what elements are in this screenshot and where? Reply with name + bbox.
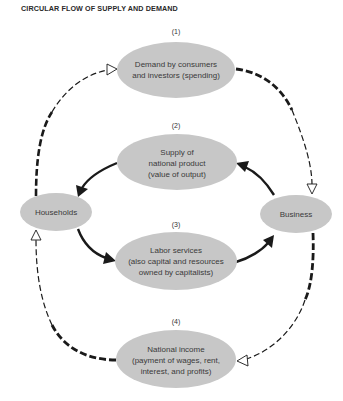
hollow-arrowhead-icon — [237, 355, 248, 366]
edge-business-to-supply — [245, 167, 274, 195]
node-number: (2) — [172, 122, 181, 130]
node-label-line: (value of output) — [148, 170, 206, 179]
hollow-arrowhead-icon — [31, 230, 41, 240]
edge-households-to-labor — [78, 229, 106, 258]
node-label-line: (payment of wages, rent, — [132, 356, 220, 365]
edge-households-to-demand — [36, 70, 108, 196]
node-label-line: owned by capitalists) — [139, 268, 214, 277]
circular-flow-diagram: (1) Demand by consumers and investors (s… — [0, 0, 343, 401]
edge-supply-to-households — [82, 163, 117, 188]
node-label-line: (also capital and resources — [128, 257, 224, 266]
node-households: Households — [20, 193, 92, 231]
node-label-line: and investors (spending) — [132, 71, 220, 80]
node-label-line: Labor services — [150, 246, 202, 255]
node-number: (1) — [172, 28, 181, 36]
filled-arrowhead-icon — [103, 252, 116, 264]
node-supply: (2) Supply of national product (value of… — [117, 122, 237, 190]
hollow-arrowhead-icon — [307, 184, 317, 194]
node-number: (3) — [172, 221, 181, 229]
node-label-line: interest, and profits) — [141, 367, 212, 376]
hollow-arrowhead-icon — [107, 64, 117, 75]
node-demand: (1) Demand by consumers and investors (s… — [117, 28, 235, 98]
node-label-line: Households — [35, 208, 77, 217]
node-label-line: Demand by consumers — [135, 60, 217, 69]
node-label-line: Business — [280, 210, 312, 219]
node-number: (4) — [172, 318, 181, 326]
node-label-line: Supply of — [160, 148, 194, 157]
edge-labor-to-business — [236, 243, 268, 262]
node-label-line: National income — [147, 345, 205, 354]
node-labor: (3) Labor services (also capital and res… — [115, 221, 237, 290]
filled-arrowhead-icon — [236, 161, 249, 172]
node-income: (4) National income (payment of wages, r… — [116, 318, 236, 388]
node-label-line: national product — [149, 159, 207, 168]
node-business: Business — [260, 195, 332, 233]
